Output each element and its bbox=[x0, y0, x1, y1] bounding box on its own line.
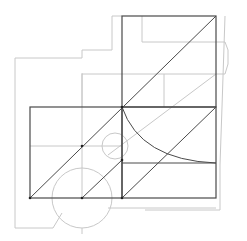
quarter-arc bbox=[122, 107, 216, 163]
lower-diagonal bbox=[122, 107, 216, 198]
node-mid-bottom bbox=[81, 197, 84, 200]
node-small-circle-bottom bbox=[121, 159, 124, 162]
circles-group bbox=[52, 133, 128, 228]
node-mid-left bbox=[81, 145, 84, 148]
diagram-canvas bbox=[0, 0, 247, 241]
arcs-group bbox=[122, 107, 216, 163]
diagram-svg bbox=[0, 0, 247, 241]
node-right-bottom bbox=[121, 197, 124, 200]
node-center bbox=[121, 106, 124, 109]
outer-left-side bbox=[15, 58, 62, 228]
light-diagonal bbox=[108, 74, 216, 155]
right-outer-side bbox=[145, 16, 225, 210]
outer-floor-outline bbox=[15, 16, 122, 58]
right-bump bbox=[216, 42, 228, 74]
left-mid-diagonal bbox=[82, 160, 122, 198]
node-left-bottom bbox=[29, 197, 32, 200]
top-inner-rect bbox=[142, 16, 216, 42]
